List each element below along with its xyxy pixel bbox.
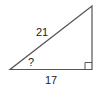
angle-label: ? [28,57,34,68]
right-triangle [10,6,92,70]
right-angle-marker [85,63,92,70]
hypotenuse-label: 21 [36,27,48,38]
base-label: 17 [45,75,57,86]
